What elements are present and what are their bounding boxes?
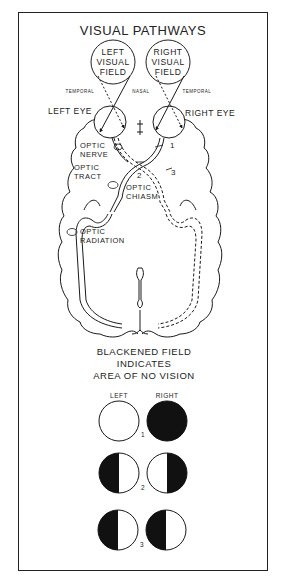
temporal-left-label: TEMPORAL [66, 89, 95, 94]
left-visual-field: LEFT VISUAL FIELD [91, 40, 135, 84]
optic-tract-label: OPTIC TRACT [74, 163, 102, 181]
field-full-vision [99, 401, 139, 441]
legend-row-3: 3 [98, 510, 186, 550]
lesion-cut-marks [136, 145, 172, 170]
right-eye-label: RIGHT EYE [185, 108, 235, 118]
optic-nerve-label: OPTIC NERVE [80, 141, 108, 159]
visual-pathways-diagram: VISUAL PATHWAYS LEFT VISUAL FIELD RIGHT … [0, 0, 291, 586]
svg-text:NERVE: NERVE [80, 150, 108, 159]
nasal-label: NASAL [132, 89, 149, 94]
svg-text:RADIATION: RADIATION [80, 236, 125, 245]
svg-text:AREA OF NO VISION: AREA OF NO VISION [93, 370, 194, 381]
svg-text:1: 1 [141, 431, 145, 438]
svg-text:3: 3 [140, 541, 144, 548]
svg-text:2: 2 [141, 484, 145, 491]
field-right-half-blind [167, 453, 187, 493]
field-left-half-blind [99, 453, 119, 493]
field-blind [147, 401, 187, 441]
optic-chiasm-label: OPTIC CHIASM [126, 183, 158, 201]
svg-text:BLACKENED FIELD: BLACKENED FIELD [97, 346, 192, 357]
lesion-marker-1: 1 [170, 141, 175, 150]
svg-text:OPTIC: OPTIC [80, 141, 106, 150]
svg-text:VISUAL: VISUAL [151, 57, 184, 67]
svg-text:LEFT: LEFT [102, 47, 125, 57]
svg-text:INDICATES: INDICATES [117, 358, 171, 369]
field-left-half-blind [98, 510, 118, 550]
field-left-half-blind [146, 510, 166, 550]
legend-row-1: 1 [99, 401, 187, 441]
svg-text:FIELD: FIELD [155, 67, 182, 77]
legend-col-right: RIGHT [156, 392, 179, 399]
svg-text:OPTIC: OPTIC [126, 183, 152, 192]
optic-radiation-label: OPTIC RADIATION [80, 227, 125, 245]
left-eye-label: LEFT EYE [48, 106, 92, 116]
svg-text:OPTIC: OPTIC [74, 163, 100, 172]
legend-caption: BLACKENED FIELD INDICATES AREA OF NO VIS… [93, 346, 194, 381]
svg-text:TRACT: TRACT [74, 172, 102, 181]
page-title: VISUAL PATHWAYS [80, 23, 206, 38]
svg-text:VISUAL: VISUAL [96, 57, 129, 67]
svg-text:CHIASM: CHIASM [126, 192, 158, 201]
right-eye-globe [153, 106, 185, 138]
temporal-right-label: TEMPORAL [183, 89, 212, 94]
legend-row-2: 2 [99, 453, 187, 493]
lesion-marker-3: 3 [171, 168, 176, 177]
svg-text:FIELD: FIELD [100, 67, 127, 77]
svg-text:RIGHT: RIGHT [154, 47, 183, 57]
svg-text:OPTIC: OPTIC [80, 227, 106, 236]
legend-col-left: LEFT [110, 392, 128, 399]
lesion-marker-2: 2 [137, 171, 142, 180]
left-eye-globe [94, 106, 126, 138]
